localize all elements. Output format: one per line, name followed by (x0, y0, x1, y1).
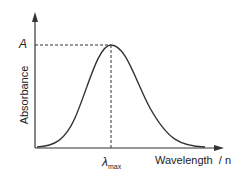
lambda-max-label: λmax (102, 155, 121, 170)
y-axis-arrow-icon (32, 12, 38, 22)
x-axis-label: Wavelength / n (155, 154, 231, 166)
chart-plot (0, 0, 243, 177)
lambda-subscript: max (108, 163, 121, 170)
peak-absorbance-label: A (19, 37, 27, 51)
x-axis-arrow-icon (214, 145, 224, 151)
absorbance-curve (37, 45, 205, 147)
y-axis-label: Absorbance (18, 66, 30, 125)
